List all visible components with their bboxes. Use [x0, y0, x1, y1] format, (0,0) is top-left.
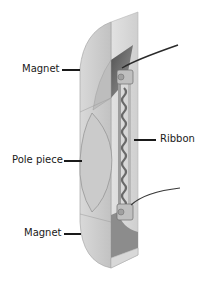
label-ribbon: Ribbon [160, 133, 195, 145]
leader-magnet-top [62, 69, 80, 71]
label-magnet-bottom: Magnet [24, 227, 62, 239]
label-magnet-top: Magnet [22, 63, 60, 75]
lead-wire-bottom [131, 188, 180, 205]
leader-pole-piece [64, 160, 82, 162]
label-pole-piece: Pole piece [12, 154, 63, 166]
leader-magnet-bottom [64, 233, 81, 235]
leader-ribbon [134, 139, 156, 141]
